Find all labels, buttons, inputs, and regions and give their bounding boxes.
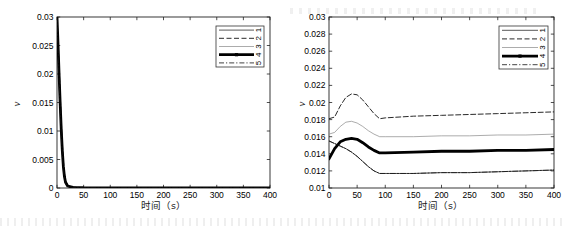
legend-entry-label: 5: [254, 60, 263, 65]
right-chart-panel: ν 0501001502002503003504000.010.0120.014…: [283, 0, 567, 228]
svg-text:0.01: 0.01: [309, 183, 326, 193]
svg-text:0.02: 0.02: [37, 69, 54, 79]
svg-text:0.005: 0.005: [32, 155, 54, 165]
legend-entry-label: 5: [538, 62, 547, 67]
svg-text:0.014: 0.014: [304, 149, 326, 159]
scan-artifact-top: [290, 8, 540, 14]
legend-entry-label: 1: [254, 27, 263, 32]
right-plot-svg: 0501001502002503003504000.010.0120.0140.…: [283, 0, 567, 205]
left-chart-panel: ν 05010015020025030035040000.0050.010.01…: [0, 0, 284, 228]
svg-text:0.024: 0.024: [304, 63, 326, 73]
svg-text:0.02: 0.02: [309, 98, 326, 108]
svg-text:0.018: 0.018: [304, 115, 326, 125]
svg-text:0.012: 0.012: [304, 166, 326, 176]
svg-text:0.022: 0.022: [304, 80, 326, 90]
left-plot-svg: 05010015020025030035040000.0050.010.0150…: [0, 0, 284, 205]
legend-entry-label: 2: [254, 36, 263, 41]
legend-entry-label: 4: [538, 53, 547, 58]
left-x-axis-label: 时间（s）: [57, 198, 270, 212]
svg-text:0.025: 0.025: [32, 41, 54, 51]
legend-entry-label: 3: [254, 44, 263, 49]
svg-text:0.016: 0.016: [304, 132, 326, 142]
svg-text:0: 0: [49, 183, 54, 193]
legend-entry-label: 2: [538, 36, 547, 41]
svg-text:0.028: 0.028: [304, 29, 326, 39]
legend-entry-label: 1: [538, 28, 547, 33]
scan-artifact-bottom: [0, 218, 567, 226]
figure-two-line-charts: ν 05010015020025030035040000.0050.010.01…: [0, 0, 567, 228]
legend-entry-label: 4: [254, 52, 263, 57]
svg-text:0.01: 0.01: [37, 126, 54, 136]
svg-text:0.015: 0.015: [32, 98, 54, 108]
legend-entry-label: 3: [538, 45, 547, 50]
svg-text:0.026: 0.026: [304, 46, 326, 56]
svg-text:0.03: 0.03: [37, 12, 54, 22]
right-x-axis-label: 时间（s）: [328, 198, 553, 212]
